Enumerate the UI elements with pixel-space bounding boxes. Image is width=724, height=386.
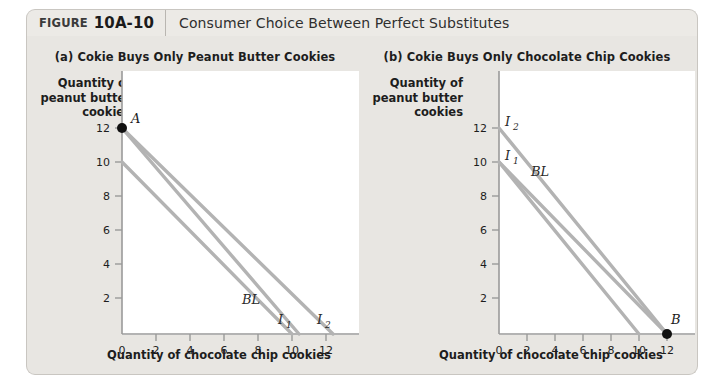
panel-a-ytick-4: 4	[103, 258, 110, 271]
panel-b-y-ticks	[492, 128, 499, 298]
panel-b-xtick-4: 4	[552, 344, 559, 357]
panel-a-plot: 12 10 8 6 4 2 0 2 4 6 8	[27, 36, 363, 373]
panel-b: (b) Cokie Buys Only Chocolate Chip Cooki…	[359, 36, 695, 373]
panel-b-point-b-marker	[662, 329, 672, 339]
panel-b-plot-background	[499, 71, 695, 335]
panel-b-xtick-2: 2	[524, 344, 531, 357]
panel-b-xtick-12: 12	[660, 344, 674, 357]
panel-a-point-a-label: A	[130, 111, 140, 126]
panel-a-y-ticks	[115, 128, 122, 298]
figure-tag: FIGURE 10A-10	[27, 10, 166, 36]
panel-a-x-ticks	[156, 334, 326, 341]
panel-b-label-i1: I	[504, 148, 511, 163]
panel-a-xtick-12: 12	[319, 344, 333, 357]
panel-b-x-ticks	[527, 334, 667, 341]
panel-a-ytick-12: 12	[96, 122, 110, 135]
figure-title: Consumer Choice Between Perfect Substitu…	[166, 15, 509, 31]
panel-b-ytick-4: 4	[480, 258, 487, 271]
panel-a-xtick-6: 6	[221, 344, 228, 357]
panel-a-label-bl: BL	[241, 292, 260, 307]
panel-a: (a) Cokie Buys Only Peanut Butter Cookie…	[27, 36, 363, 373]
panel-b-label-bl: BL	[530, 164, 549, 179]
figure-body: (a) Cokie Buys Only Peanut Butter Cookie…	[26, 36, 698, 375]
figure-root: FIGURE 10A-10 Consumer Choice Between Pe…	[0, 0, 724, 386]
panel-b-plot: 12 10 8 6 4 2 0 2 4 6 8	[359, 36, 695, 373]
panel-a-label-i2-sub: 2	[324, 320, 331, 330]
figure-header: FIGURE 10A-10 Consumer Choice Between Pe…	[26, 9, 698, 36]
panel-a-point-a-marker	[117, 123, 127, 133]
panel-a-ytick-10: 10	[96, 156, 110, 169]
panel-a-xtick-0: 0	[119, 344, 126, 357]
panel-a-label-i1-sub: 1	[286, 320, 292, 330]
panel-b-label-i2-sub: 2	[512, 122, 519, 132]
panel-b-label-i1-sub: 1	[513, 156, 519, 166]
panel-b-ytick-2: 2	[480, 292, 487, 305]
panel-a-xtick-8: 8	[255, 344, 262, 357]
panel-b-xtick-10: 10	[632, 344, 646, 357]
panel-a-label-i2: I	[316, 312, 323, 327]
panel-b-ytick-6: 6	[480, 224, 487, 237]
panel-a-xtick-4: 4	[187, 344, 194, 357]
panel-b-xtick-8: 8	[608, 344, 615, 357]
panel-a-ytick-6: 6	[103, 224, 110, 237]
panel-b-ytick-8: 8	[480, 190, 487, 203]
panel-a-label-i1: I	[277, 312, 284, 327]
figure-tag-number: 10A-10	[94, 14, 154, 32]
figure-tag-word: FIGURE	[39, 16, 88, 30]
panel-a-ytick-2: 2	[103, 292, 110, 305]
panel-a-ytick-8: 8	[103, 190, 110, 203]
panel-b-xtick-0: 0	[496, 344, 503, 357]
panel-b-ytick-10: 10	[473, 156, 487, 169]
panel-a-xtick-10: 10	[285, 344, 299, 357]
panel-b-label-i2: I	[504, 114, 511, 129]
panel-a-plot-background	[122, 71, 359, 335]
panel-a-xtick-2: 2	[153, 344, 160, 357]
panel-b-point-b-label: B	[670, 312, 681, 327]
panel-b-ytick-12: 12	[473, 122, 487, 135]
panel-b-xtick-6: 6	[580, 344, 587, 357]
